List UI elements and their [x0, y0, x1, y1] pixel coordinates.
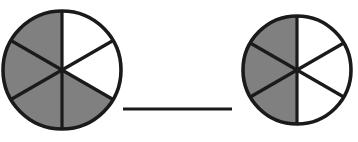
- figure-canvas: [0, 0, 358, 142]
- left-fraction-circle[interactable]: [3, 11, 121, 129]
- right-fraction-circle[interactable]: [243, 16, 351, 124]
- fraction-comparison-figure: [0, 0, 358, 142]
